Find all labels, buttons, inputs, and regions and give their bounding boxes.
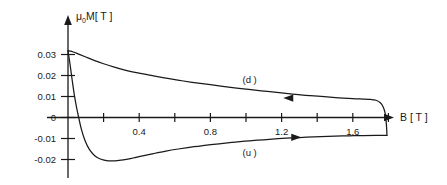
y-tick-label: -0.01 <box>34 133 56 144</box>
y-tick-label: -0.02 <box>34 154 56 165</box>
curve-down-sweep <box>68 51 387 136</box>
y-tick-label: 0.02 <box>38 70 57 81</box>
x-tick-group: 0.40.81.21.6 <box>104 113 389 137</box>
y-axis-title-rest: M[ T ] <box>86 10 113 22</box>
direction-arrow-down-sweep <box>283 94 293 101</box>
x-axis-title: B [ T ] <box>400 111 428 123</box>
y-axis-arrowhead <box>64 15 72 25</box>
chart-svg: 0.030.020.010-0.01-0.02 0.40.81.21.6 B [… <box>0 0 447 185</box>
x-tick-label: 1.2 <box>275 126 288 137</box>
x-tick-label: 0.8 <box>204 126 217 137</box>
y-tick-label: 0.01 <box>38 91 57 102</box>
y-axis-title: μ0M[ T ] <box>76 10 113 24</box>
x-tick-label: 0.4 <box>133 126 146 137</box>
x-axis <box>47 114 394 122</box>
data-curves-group <box>68 51 387 161</box>
annotation-up-sweep: (u ) <box>242 147 256 158</box>
x-tick-label: 1.6 <box>346 126 359 137</box>
annotation-down-sweep: (d ) <box>242 74 256 85</box>
direction-arrow-up-sweep <box>291 134 301 141</box>
y-tick-label: 0 <box>51 112 56 123</box>
svg-text:μ0M[ T ]: μ0M[ T ] <box>76 10 113 24</box>
y-tick-label: 0.03 <box>38 49 57 60</box>
y-tick-group: 0.030.020.010-0.01-0.02 <box>34 49 75 165</box>
magnetization-hysteresis-chart: 0.030.020.010-0.01-0.02 0.40.81.21.6 B [… <box>0 0 447 185</box>
